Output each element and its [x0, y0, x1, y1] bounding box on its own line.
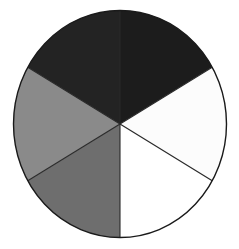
figure-canvas — [0, 0, 239, 249]
pie-chart-disc — [0, 0, 239, 249]
